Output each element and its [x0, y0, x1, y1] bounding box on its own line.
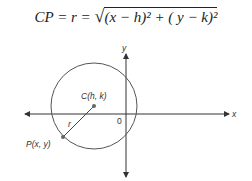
- center-label: C(h, k): [81, 91, 107, 101]
- point-p: [61, 135, 65, 139]
- radius-label: r: [68, 119, 72, 129]
- y-axis-label: y: [121, 43, 127, 53]
- circle-diagram: C(h, k) P(x, y) r 0 x y: [0, 0, 252, 181]
- point-label: P(x, y): [26, 139, 51, 149]
- x-axis-label: x: [231, 109, 237, 119]
- origin-label: 0: [117, 116, 122, 126]
- center-point: [92, 104, 96, 108]
